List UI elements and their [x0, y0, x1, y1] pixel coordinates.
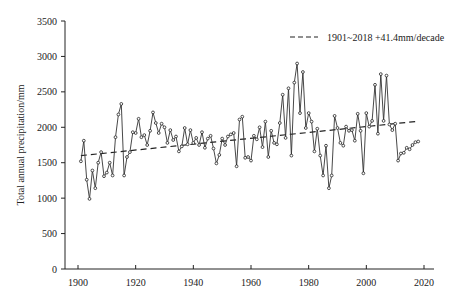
data-point [368, 125, 371, 128]
data-point [97, 161, 100, 164]
data-point [183, 127, 186, 130]
data-point [235, 165, 238, 168]
data-point [186, 143, 189, 146]
data-point [189, 129, 192, 132]
x-ticks: 1900192019401960198020002020 [68, 265, 434, 288]
data-markers [80, 62, 420, 200]
data-point [408, 148, 411, 151]
data-point [322, 174, 325, 177]
data-point [250, 159, 253, 162]
data-point [94, 187, 97, 190]
data-point [397, 159, 400, 162]
data-point [382, 120, 385, 123]
y-tick-label: 2500 [37, 86, 57, 97]
x-tick-label: 2020 [414, 277, 434, 288]
data-point [333, 115, 336, 118]
data-point [313, 150, 316, 153]
data-point [385, 74, 388, 77]
data-point [140, 136, 143, 139]
data-point [402, 151, 405, 154]
data-point [405, 146, 408, 149]
data-point [88, 198, 91, 201]
data-point [175, 135, 178, 138]
y-axis-title: Total annual precipitation/mm [15, 84, 26, 205]
data-point [310, 120, 313, 123]
data-point [227, 135, 230, 138]
data-point [400, 152, 403, 155]
data-point [296, 62, 299, 65]
data-point [388, 123, 391, 126]
data-point [169, 129, 172, 132]
x-tick-label: 1980 [299, 277, 319, 288]
data-point [345, 125, 348, 128]
data-point [247, 156, 250, 159]
data-point [353, 139, 356, 142]
y-tick-label: 0 [52, 264, 57, 275]
data-point [339, 142, 342, 145]
data-point [117, 113, 120, 116]
data-point [152, 111, 155, 114]
data-point [290, 154, 293, 157]
data-point [192, 142, 195, 145]
data-point [100, 151, 103, 154]
data-point [374, 83, 377, 86]
data-point [278, 122, 281, 125]
data-point [218, 154, 221, 157]
data-point [111, 174, 114, 177]
data-point [287, 87, 290, 90]
plot-area [80, 62, 420, 200]
data-point [417, 140, 420, 143]
data-point [325, 144, 328, 147]
data-point [195, 137, 198, 140]
data-point [126, 156, 129, 159]
data-point [255, 138, 258, 141]
data-point [221, 137, 224, 140]
data-point [284, 137, 287, 140]
data-point [206, 137, 209, 140]
data-point [154, 122, 157, 125]
data-point [131, 131, 134, 134]
data-point [204, 146, 207, 149]
data-point [229, 133, 232, 136]
y-tick-label: 3000 [37, 51, 57, 62]
y-tick-label: 3500 [37, 16, 57, 27]
data-point [304, 127, 307, 130]
data-point [342, 144, 345, 147]
x-tick-label: 2000 [356, 277, 376, 288]
data-point [172, 139, 175, 142]
data-point [129, 151, 132, 154]
x-tick-label: 1920 [126, 277, 146, 288]
data-point [91, 169, 94, 172]
data-point [270, 129, 273, 132]
data-point [103, 175, 106, 178]
x-tick-label: 1940 [183, 277, 203, 288]
data-point [108, 161, 111, 164]
data-point [198, 144, 201, 147]
data-point [293, 81, 296, 84]
data-point [273, 142, 276, 145]
data-point [146, 144, 149, 147]
data-point [319, 154, 322, 157]
data-point [299, 112, 302, 115]
y-tick-label: 500 [42, 228, 57, 239]
y-ticks: 0500100015002000250030003500 [37, 16, 65, 275]
data-point [224, 144, 227, 147]
data-point [241, 115, 244, 118]
data-point [351, 129, 354, 132]
data-point [371, 120, 374, 123]
data-point [149, 129, 152, 132]
data-point [267, 156, 270, 159]
data-point [391, 129, 394, 132]
data-point [359, 129, 362, 132]
legend: 1901~2018 +41.4mm/decade [290, 32, 445, 43]
data-point [394, 122, 397, 125]
data-point [232, 132, 235, 135]
data-point [201, 131, 204, 134]
data-point [123, 174, 126, 177]
x-tick-label: 1900 [68, 277, 88, 288]
y-tick-label: 2000 [37, 122, 57, 133]
data-point [178, 150, 181, 153]
data-point [411, 144, 414, 147]
data-point [356, 112, 359, 115]
data-point [120, 103, 123, 106]
